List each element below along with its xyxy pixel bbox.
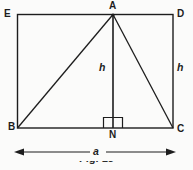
label-vertex-c: C <box>177 124 184 134</box>
arrowhead-left-icon <box>14 149 24 156</box>
label-base-dimension: a <box>93 146 99 157</box>
apex-vertex-dot <box>111 13 114 16</box>
figure-caption-text: Fig. 13 <box>0 161 193 164</box>
label-vertex-a: A <box>109 1 116 11</box>
arrowhead-right-icon <box>166 149 176 156</box>
label-foot-n: N <box>109 130 116 140</box>
label-vertex-d: D <box>177 9 184 19</box>
label-vertex-b: B <box>8 122 15 132</box>
triangle-side-ac <box>113 15 173 129</box>
label-vertex-e: E <box>4 9 11 19</box>
rectangle-ebcd <box>18 15 174 129</box>
label-height-inner: h <box>99 62 105 73</box>
label-height-right: h <box>177 62 183 73</box>
geometry-figure: E D A B C N h h a Fig. 13 <box>0 0 193 170</box>
figure-caption: Fig. 13 <box>0 161 193 170</box>
